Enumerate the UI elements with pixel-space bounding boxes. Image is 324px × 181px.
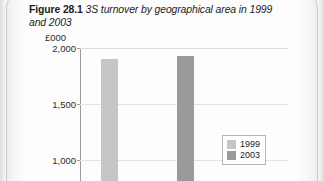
legend-label-2003: 2003: [240, 151, 260, 160]
y-axis-line: [80, 48, 81, 181]
gridline-2000: 2,000: [80, 48, 288, 49]
page-edge-left: [6, 0, 29, 181]
legend-label-1999: 1999: [240, 140, 260, 149]
figure-number: Figure 28.1: [29, 4, 83, 15]
page-gutter-right: [317, 0, 324, 181]
figure-caption: Figure 28.1 3S turnover by geographical …: [29, 3, 291, 29]
y-tick-mark: [77, 160, 80, 161]
y-tick-mark: [77, 104, 80, 105]
legend-item-2003: 2003: [227, 150, 260, 161]
y-axis-unit-label: £000: [45, 32, 66, 43]
bar-1999: [101, 59, 118, 181]
page-gutter-left: [0, 0, 7, 181]
bar-2003: [177, 56, 194, 181]
legend-item-1999: 1999: [227, 139, 260, 150]
plot-area: 2,0001,5001,000 19992003: [80, 48, 288, 181]
legend-swatch-2003: [227, 151, 236, 160]
legend-swatch-1999: [227, 140, 236, 149]
y-tick-label: 1,000: [52, 155, 76, 166]
bar-chart: £000 2,0001,5001,000 19992003: [29, 30, 291, 181]
y-tick-mark: [77, 48, 80, 49]
y-tick-label: 2,000: [52, 43, 76, 54]
page-edge-right: [295, 0, 318, 181]
y-tick-label: 1,500: [52, 99, 76, 110]
chart-legend: 19992003: [222, 135, 266, 165]
scanned-page: Figure 28.1 3S turnover by geographical …: [0, 0, 324, 181]
